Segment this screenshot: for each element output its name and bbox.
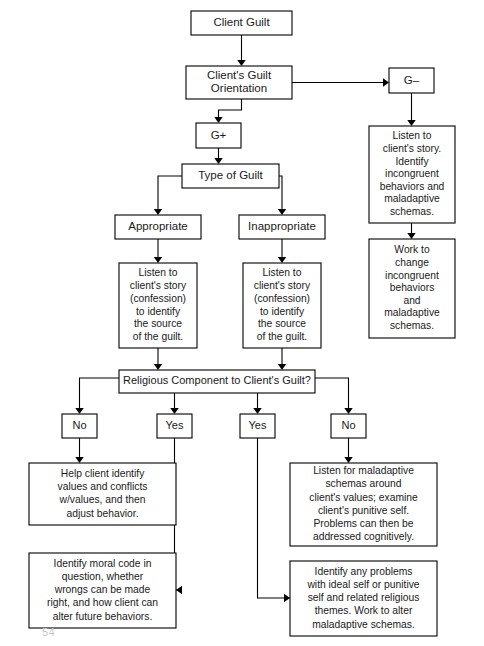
node-listen-source-of-guilt-inappropriate-label-line-0: Listen to xyxy=(263,267,302,278)
node-religious-component-question[interactable]: Religious Component to Client's Guilt? xyxy=(119,370,315,393)
node-identify-moral-code-label-line-1: question, whether xyxy=(62,571,144,582)
node-inappropriate[interactable]: Inappropriate xyxy=(239,215,325,239)
node-answer-yes-left[interactable]: Yes xyxy=(157,414,192,438)
node-identify-moral-code[interactable]: Identify moral code inquestion, whetherw… xyxy=(29,553,176,628)
node-listen-source-of-guilt-inappropriate[interactable]: Listen toclient's story(confession)to id… xyxy=(243,263,321,348)
node-listen-source-of-guilt-appropriate-label-line-5: of the guilt. xyxy=(133,331,183,342)
node-answer-no-left-label-line-0: No xyxy=(72,419,86,431)
node-clients-guilt-orientation-label-line-0: Client's Guilt xyxy=(207,69,272,81)
node-help-client-identify-values-label-line-3: adjust behavior. xyxy=(66,508,138,519)
node-appropriate-label-line-0: Appropriate xyxy=(128,220,187,232)
conn-orientation-to-g-plus xyxy=(214,99,241,123)
flowchart-root: Client GuiltClient's GuiltOrientationG–G… xyxy=(0,0,484,646)
node-listen-source-of-guilt-appropriate-label-line-2: (confession) xyxy=(130,293,186,304)
node-listen-maladaptive-schemas-values-label-line-0: Listen for maladaptive xyxy=(313,465,414,476)
node-listen-source-of-guilt-inappropriate-label-line-1: client's story xyxy=(254,280,311,291)
conn-religious-to-no-1 xyxy=(75,378,119,414)
node-work-to-change-incongruent-label-line-3: behaviors xyxy=(390,282,435,293)
node-g-minus[interactable]: G– xyxy=(389,68,434,93)
conn-client-guilt-to-orientation xyxy=(237,35,245,66)
node-listen-source-of-guilt-appropriate-label-line-0: Listen to xyxy=(139,267,178,278)
node-listen-identify-incongruent-label-line-4: behaviors and xyxy=(380,181,445,192)
node-identify-moral-code-label-line-4: alter future behaviors. xyxy=(53,611,153,622)
node-listen-source-of-guilt-inappropriate-label-line-3: to identify xyxy=(260,306,305,317)
node-client-guilt[interactable]: Client Guilt xyxy=(191,11,292,35)
node-listen-identify-incongruent-label-line-1: client's story. xyxy=(383,143,441,154)
node-work-to-change-incongruent-label-line-5: maladaptive xyxy=(384,307,440,318)
node-identify-ideal-self-problems-label-line-3: themes. Work to alter xyxy=(315,605,413,616)
node-religious-component-question-label-line-0: Religious Component to Client's Guilt? xyxy=(123,374,311,386)
conn-religious-to-yes-1 xyxy=(170,393,178,414)
node-answer-no-right-label-line-0: No xyxy=(341,419,355,431)
node-listen-source-of-guilt-inappropriate-label-line-4: the source xyxy=(258,318,306,329)
conn-appropriate-to-listen-left xyxy=(154,239,162,263)
conn-listen-to-work-change xyxy=(407,223,415,239)
conn-g-plus-to-type xyxy=(214,148,222,164)
node-g-plus-label-line-0: G+ xyxy=(211,129,227,141)
node-answer-yes-right[interactable]: Yes xyxy=(240,414,275,438)
conn-religious-to-no-2 xyxy=(315,378,353,414)
node-listen-source-of-guilt-inappropriate-label-line-2: (confession) xyxy=(254,293,310,304)
node-answer-no-right[interactable]: No xyxy=(331,414,366,438)
node-identify-ideal-self-problems[interactable]: Identify any problemswith ideal self or … xyxy=(290,561,437,636)
node-help-client-identify-values[interactable]: Help client identifyvalues and conflicts… xyxy=(29,463,176,525)
node-work-to-change-incongruent-label-line-1: change xyxy=(395,257,429,268)
node-listen-source-of-guilt-inappropriate-label-line-5: of the guilt. xyxy=(257,331,307,342)
node-g-plus[interactable]: G+ xyxy=(196,123,241,148)
node-identify-ideal-self-problems-label-line-0: Identify any problems xyxy=(315,566,413,577)
node-clients-guilt-orientation[interactable]: Client's GuiltOrientation xyxy=(186,66,292,99)
conn-type-to-appropriate xyxy=(154,176,182,215)
node-g-minus-label-line-0: G– xyxy=(404,74,420,86)
conn-no-1-to-help-client xyxy=(75,438,83,463)
node-inappropriate-label-line-0: Inappropriate xyxy=(248,220,316,232)
node-help-client-identify-values-label-line-2: w/values, and then xyxy=(59,494,146,505)
node-listen-identify-incongruent-label-line-0: Listen to xyxy=(393,130,432,141)
node-listen-identify-incongruent-label-line-3: incongruent xyxy=(385,168,439,179)
node-listen-source-of-guilt-appropriate-label-line-3: to identify xyxy=(136,306,181,317)
node-work-to-change-incongruent[interactable]: Work tochangeincongruentbehaviorsandmala… xyxy=(369,239,455,338)
node-listen-maladaptive-schemas-values[interactable]: Listen for maladaptiveschemas aroundclie… xyxy=(290,463,437,546)
node-work-to-change-incongruent-label-line-4: and xyxy=(403,295,420,306)
node-answer-yes-left-label-line-0: Yes xyxy=(166,419,184,431)
node-listen-identify-incongruent[interactable]: Listen toclient's story.Identifyincongru… xyxy=(369,126,455,223)
conn-inappropriate-to-listen-right xyxy=(278,239,286,263)
node-listen-maladaptive-schemas-values-label-line-2: client's values; examine xyxy=(309,492,418,503)
node-type-of-guilt-label-line-0: Type of Guilt xyxy=(198,169,263,181)
node-work-to-change-incongruent-label-line-0: Work to xyxy=(394,244,430,255)
node-client-guilt-label-line-0: Client Guilt xyxy=(213,16,270,28)
conn-listen-left-to-religious xyxy=(154,348,162,370)
node-identify-moral-code-label-line-0: Identify moral code in xyxy=(54,558,152,569)
node-appropriate[interactable]: Appropriate xyxy=(115,215,201,239)
node-identify-ideal-self-problems-label-line-2: self and related religious xyxy=(308,592,420,603)
node-identify-moral-code-label-line-2: wrongs can be made xyxy=(54,584,151,595)
node-listen-source-of-guilt-appropriate-label-line-1: client's story xyxy=(130,280,187,291)
node-help-client-identify-values-label-line-1: values and conflicts xyxy=(58,481,148,492)
node-listen-identify-incongruent-label-line-6: schemas. xyxy=(390,206,434,217)
node-answer-no-left[interactable]: No xyxy=(62,414,97,438)
flowchart-canvas: Client GuiltClient's GuiltOrientationG–G… xyxy=(0,0,484,646)
node-listen-maladaptive-schemas-values-label-line-3: client's punitive self. xyxy=(318,505,409,516)
node-clients-guilt-orientation-label-line-1: Orientation xyxy=(211,82,267,94)
node-type-of-guilt[interactable]: Type of Guilt xyxy=(182,164,279,188)
node-listen-maladaptive-schemas-values-label-line-1: schemas around xyxy=(325,478,401,489)
node-listen-source-of-guilt-appropriate[interactable]: Listen toclient's story(confession)to id… xyxy=(119,263,197,348)
node-listen-maladaptive-schemas-values-label-line-5: addressed cognitively. xyxy=(313,531,414,542)
node-identify-ideal-self-problems-label-line-4: maladaptive schemas. xyxy=(312,619,414,630)
node-work-to-change-incongruent-label-line-2: incongruent xyxy=(385,270,439,281)
conn-g-minus-to-listen xyxy=(407,93,415,126)
page-number: 54 xyxy=(42,626,55,638)
node-identify-moral-code-label-line-3: right, and how client can xyxy=(47,597,158,608)
conn-listen-right-to-religious xyxy=(278,348,286,370)
node-listen-identify-incongruent-label-line-2: Identify xyxy=(395,156,429,167)
node-answer-yes-right-label-line-0: Yes xyxy=(249,419,267,431)
node-listen-identify-incongruent-label-line-5: maladaptive xyxy=(384,193,440,204)
node-identify-ideal-self-problems-label-line-1: with ideal self or punitive xyxy=(306,579,419,590)
conn-religious-to-yes-2 xyxy=(253,393,261,414)
node-listen-source-of-guilt-appropriate-label-line-4: the source xyxy=(134,318,182,329)
node-work-to-change-incongruent-label-line-6: schemas. xyxy=(390,320,434,331)
node-listen-maladaptive-schemas-values-label-line-4: Problems can then be xyxy=(313,518,413,529)
conn-no-2-to-listen-maladaptive xyxy=(344,438,352,463)
node-help-client-identify-values-label-line-0: Help client identify xyxy=(61,468,145,479)
conn-orientation-to-g-minus xyxy=(292,78,389,86)
